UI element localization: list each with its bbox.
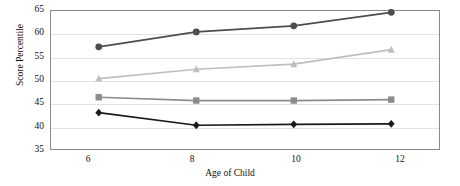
x-axis-title: Age of Child: [0, 168, 460, 178]
gridline: [51, 128, 439, 129]
x-tick-label: 10: [276, 155, 316, 165]
x-tick-label: 12: [380, 155, 420, 165]
plot-area: [50, 10, 440, 150]
gridline: [51, 58, 439, 59]
x-tick-label: 6: [68, 155, 108, 165]
gridline: [51, 34, 439, 35]
gridline: [51, 81, 439, 82]
y-tick-label: 35: [10, 145, 44, 155]
y-tick-label: 40: [10, 122, 44, 132]
chart-figure: 65 60 55 50 45 40 35 6 8 10 12 Score Per…: [0, 0, 460, 186]
gridline: [51, 104, 439, 105]
y-axis-title: Score Percentile: [15, 0, 25, 115]
x-tick-label: 8: [172, 155, 212, 165]
